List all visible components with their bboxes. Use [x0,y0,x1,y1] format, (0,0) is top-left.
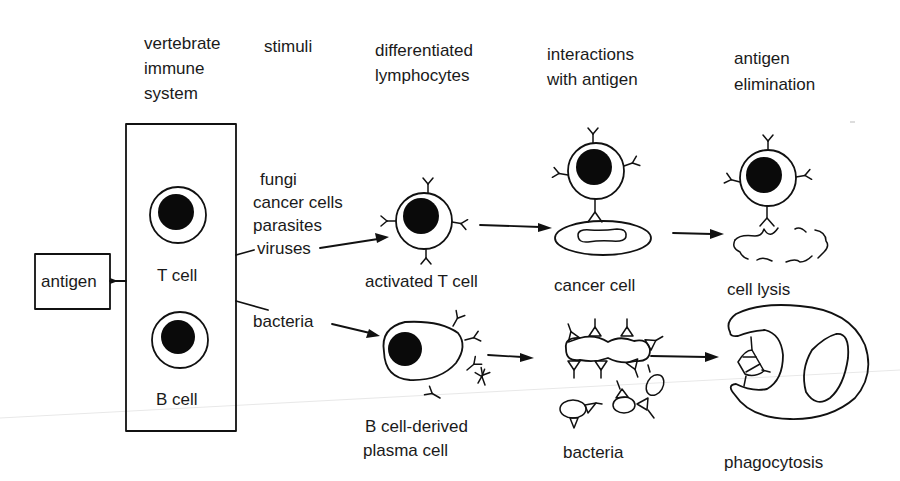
header-stimuli: stimuli [264,37,312,56]
bacterium-small-2 [613,381,635,413]
nucleus-icon [576,149,612,185]
header-line: differentiated [375,41,473,60]
bacterium-small-3 [637,365,667,418]
nucleus-icon [158,194,194,230]
t-cell-stimuli-list: fungi cancer cells parasites viruses [236,170,343,258]
header-line: interactions [547,45,634,64]
antibody-icon [588,128,598,143]
antibody-icon [595,361,607,378]
t-cell-binding-cancer-cell [552,128,639,222]
arrow-bacteria-to-phagocytosis [651,352,719,362]
antibody-icon [621,319,633,336]
t-cell-resting [150,187,206,243]
arrow-t-cell-to-cancer-cell [480,223,552,232]
phagocyte-nucleus [804,334,848,402]
phagocyte [728,305,868,419]
antibody-icon [795,169,812,181]
secreted-antibody-icon [464,357,482,374]
antigen-box: antigen [35,254,126,309]
header-line: with antigen [546,70,638,89]
header-line: immune [144,59,204,78]
stimulus-item: cancer cells [253,193,343,212]
bacteria-label: bacteria [563,443,624,462]
bacteria-chain [563,319,666,379]
antibody-icon [568,361,580,378]
arrow-cancer-cell-to-lysis [673,229,724,239]
phagocytosis-label: phagocytosis [724,453,823,472]
nucleus-icon [403,198,439,234]
antibody-icon [381,216,396,226]
header-line: stimuli [264,37,312,56]
label-line: B cell-derived [365,417,468,436]
activated-t-cell [381,178,468,264]
arrow-plasma-cell-to-bacteria [488,353,534,362]
antibody-icon [589,319,601,336]
scan-artifact-line [0,370,900,418]
stimulus-item: parasites [253,216,322,235]
arrow-bacteria-to-plasma-cell [332,324,380,338]
stimulus-item: bacteria [253,312,314,331]
immune-response-diagram: vertebrate immune system stimuli differe… [0,0,900,481]
header-differentiated-lymphocytes: differentiated lymphocytes [375,41,473,85]
antibody-icon [622,156,640,171]
label-line: plasma cell [363,441,448,460]
antibody-icon [421,249,431,264]
stimulus-item: fungi [260,170,297,189]
header-line: elimination [734,75,815,94]
antibody-icon [423,178,433,193]
header-antigen-elimination: antigen elimination [734,49,815,94]
header-vertebrate-immune-system: vertebrate immune system [144,34,221,103]
header-line: vertebrate [144,34,221,53]
b-cell-stimuli-list: bacteria [236,301,314,331]
activated-t-cell-label: activated T cell [365,272,478,291]
plasma-cell-label: B cell-derived plasma cell [363,417,468,460]
immune-system-box: T cell B cell [126,124,236,431]
antibody-icon [451,217,468,229]
nucleus-icon [746,157,782,193]
antigen-label: antigen [41,272,97,291]
t-cell-lysis [724,135,811,226]
arrow-viruses-to-activated-t-cell [320,233,389,248]
nucleus-icon [161,320,195,354]
b-cell-label: B cell [156,390,198,409]
plasma-cell [383,311,489,403]
secreted-antibody-icon [449,311,465,329]
antibody-icon [645,331,666,350]
antibody-icon [552,167,569,179]
header-line: lymphocytes [375,66,469,85]
stimulus-item: viruses [257,239,311,258]
t-cell-label: T cell [157,266,197,285]
secreted-antibody-icon [464,331,481,345]
header-interactions-with-antigen: interactions with antigen [546,45,638,89]
header-line: antigen [734,49,790,68]
cell-lysis-label: cell lysis [727,280,790,299]
cancer-cell-label: cancer cell [554,276,635,295]
lysed-cancer-cell [734,228,828,262]
header-line: system [144,84,198,103]
bacterium-small-1 [560,400,602,428]
antibody-icon [763,135,773,150]
nucleus-icon [388,332,422,366]
antibody-icon [724,173,741,187]
b-cell-resting [152,312,208,368]
cancer-cell [555,221,651,255]
